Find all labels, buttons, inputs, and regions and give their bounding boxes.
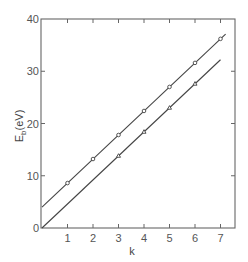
circle-marker [91, 157, 95, 161]
x-tick-label: 1 [64, 232, 70, 244]
y-tick-label: 40 [27, 13, 39, 25]
x-tick-label: 4 [141, 232, 147, 244]
chart: 1234567010203040 k Eb(eV) [0, 0, 248, 262]
circle-marker [142, 109, 146, 113]
y-tick-label: 10 [27, 170, 39, 182]
y-tick-label: 30 [27, 65, 39, 77]
circle-marker [117, 133, 121, 137]
y-tick-label: 0 [33, 222, 39, 234]
x-tick-label: 7 [217, 232, 223, 244]
circle-marker [66, 181, 70, 185]
y-axis-label: Eb(eV) [13, 110, 28, 143]
svg-text:Eb(eV): Eb(eV) [13, 110, 28, 143]
fit-lines [42, 34, 226, 228]
circle-marker [168, 85, 172, 89]
x-tick-label: 6 [192, 232, 198, 244]
y-tick-label: 20 [27, 118, 39, 130]
axis-ticks: 1234567010203040 [27, 13, 235, 244]
x-tick-label: 3 [115, 232, 121, 244]
y-label-unit: (eV) [13, 110, 25, 131]
x-tick-label: 2 [90, 232, 96, 244]
circle-marker [193, 61, 197, 65]
plot-frame [41, 19, 235, 228]
x-tick-label: 5 [166, 232, 172, 244]
y-label-main: E [13, 135, 25, 142]
circle-marker [219, 37, 223, 41]
x-axis-label: k [129, 245, 135, 257]
